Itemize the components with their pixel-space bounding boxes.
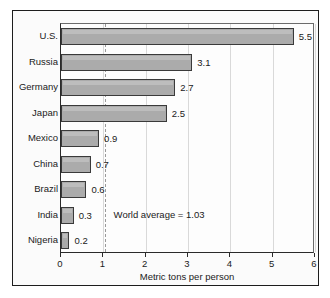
x-tick xyxy=(60,253,61,257)
bar[interactable] xyxy=(61,54,192,71)
bar-highlight xyxy=(63,56,190,60)
bar[interactable] xyxy=(61,156,91,173)
x-tick xyxy=(229,253,230,257)
bar-value-label: 3.1 xyxy=(197,50,210,76)
x-tick-label: 1 xyxy=(100,258,105,269)
bar-value-label: 0.7 xyxy=(96,152,109,178)
category-axis-labels: U.S.RussiaGermanyJapanMexicoChinaBrazilI… xyxy=(13,23,58,253)
bar[interactable] xyxy=(61,232,69,249)
bar-value-label: 0.3 xyxy=(79,203,92,229)
bar[interactable] xyxy=(61,28,294,45)
bar-highlight xyxy=(63,209,72,213)
x-tick xyxy=(102,253,103,257)
x-axis: Metric tons per person 0123456 xyxy=(60,253,314,287)
bar-highlight xyxy=(63,81,173,85)
x-tick xyxy=(187,253,188,257)
bar-value-label: 0.2 xyxy=(74,228,87,254)
bar-row: 0.2 xyxy=(61,228,313,254)
category-label: Mexico xyxy=(14,125,58,151)
bar[interactable] xyxy=(61,130,99,147)
x-axis-title: Metric tons per person xyxy=(60,271,314,282)
bar-row: 3.1 xyxy=(61,50,313,76)
x-tick xyxy=(272,253,273,257)
x-tick-label: 3 xyxy=(184,258,189,269)
bar-highlight xyxy=(63,30,292,34)
bar-row: 0.9 xyxy=(61,126,313,152)
bar-value-label: 5.5 xyxy=(299,24,312,50)
bar-highlight xyxy=(63,158,89,162)
bar-highlight xyxy=(63,183,84,187)
bar-row: 2.5 xyxy=(61,101,313,127)
bar-row: 5.5 xyxy=(61,24,313,50)
bar-value-label: 2.5 xyxy=(172,101,185,127)
gridline xyxy=(315,24,316,252)
bar[interactable] xyxy=(61,207,74,224)
category-label: India xyxy=(14,202,58,228)
bar-highlight xyxy=(63,107,165,111)
category-label: Germany xyxy=(14,74,58,100)
x-tick xyxy=(314,253,315,257)
x-tick xyxy=(145,253,146,257)
world-average-annotation: World average = 1.03 xyxy=(114,209,205,220)
bar-highlight xyxy=(63,132,97,136)
bar-value-label: 0.6 xyxy=(91,177,104,203)
x-tick-label: 5 xyxy=(269,258,274,269)
chart-figure: 5.53.12.72.50.90.70.60.30.2 U.S.RussiaGe… xyxy=(12,10,319,286)
bar[interactable] xyxy=(61,79,175,96)
x-tick-label: 0 xyxy=(57,258,62,269)
category-label: China xyxy=(14,151,58,177)
category-label: U.S. xyxy=(14,23,58,49)
category-label: Nigeria xyxy=(14,227,58,253)
x-tick-label: 4 xyxy=(227,258,232,269)
bar-highlight xyxy=(63,234,67,238)
x-tick-label: 2 xyxy=(142,258,147,269)
bar[interactable] xyxy=(61,181,86,198)
category-label: Brazil xyxy=(14,176,58,202)
bar-row: 0.7 xyxy=(61,152,313,178)
bar[interactable] xyxy=(61,105,167,122)
category-label: Russia xyxy=(14,49,58,75)
category-label: Japan xyxy=(14,100,58,126)
x-tick-label: 6 xyxy=(311,258,316,269)
bar-row: 0.6 xyxy=(61,177,313,203)
bar-row: 2.7 xyxy=(61,75,313,101)
bar-value-label: 0.9 xyxy=(104,126,117,152)
bar-value-label: 2.7 xyxy=(180,75,193,101)
